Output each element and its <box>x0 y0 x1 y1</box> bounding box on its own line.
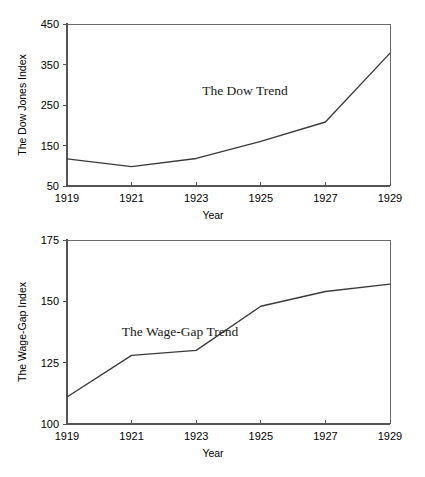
dow-y-tick-marks <box>63 24 67 186</box>
wage-x-tick-marks <box>67 420 390 424</box>
dow-y-axis-title: The Dow Jones Index <box>16 53 28 155</box>
dow-x-tick-labels: 191919211923192519271929 <box>55 192 402 204</box>
y-tick-label: 150 <box>41 140 59 152</box>
x-tick-label: 1927 <box>313 430 337 442</box>
y-tick-label: 350 <box>41 59 59 71</box>
wage-annotation: The Wage-Gap Trend <box>122 324 239 339</box>
x-tick-label: 1921 <box>119 430 143 442</box>
y-tick-label: 450 <box>41 18 59 30</box>
dow-y-tick-labels: 50150250350450 <box>41 18 59 192</box>
wage-gap-trend-plot: 100125150175 191919211923192519271929 Ye… <box>0 232 425 477</box>
x-tick-label: 1925 <box>249 430 273 442</box>
x-tick-label: 1923 <box>184 430 208 442</box>
x-tick-label: 1919 <box>55 430 79 442</box>
chart-dow-trend: 50150250350450 191919211923192519271929 … <box>0 0 425 232</box>
y-tick-label: 250 <box>41 99 59 111</box>
y-tick-label: 100 <box>41 418 59 430</box>
x-tick-label: 1923 <box>184 192 208 204</box>
dow-x-tick-marks <box>67 182 390 186</box>
wage-x-tick-labels: 191919211923192519271929 <box>55 430 402 442</box>
x-tick-label: 1929 <box>378 430 402 442</box>
wage-data-line <box>67 284 390 397</box>
x-tick-label: 1929 <box>378 192 402 204</box>
x-tick-label: 1927 <box>313 192 337 204</box>
dow-x-axis-title: Year <box>202 209 224 221</box>
wage-y-tick-labels: 100125150175 <box>41 234 59 430</box>
chart-wage-gap-trend: 100125150175 191919211923192519271929 Ye… <box>0 232 425 477</box>
dow-data-line <box>67 53 390 166</box>
y-tick-label: 175 <box>41 234 59 246</box>
dow-annotation: The Dow Trend <box>202 83 288 98</box>
y-tick-label: 150 <box>41 295 59 307</box>
y-tick-label: 125 <box>41 357 59 369</box>
wage-y-axis-title: The Wage-Gap Index <box>16 281 28 382</box>
dow-trend-plot: 50150250350450 191919211923192519271929 … <box>0 0 425 232</box>
x-tick-label: 1921 <box>119 192 143 204</box>
x-tick-label: 1919 <box>55 192 79 204</box>
x-tick-label: 1925 <box>249 192 273 204</box>
wage-x-axis-title: Year <box>202 447 224 459</box>
wage-y-tick-marks <box>63 240 67 424</box>
y-tick-label: 50 <box>47 180 59 192</box>
